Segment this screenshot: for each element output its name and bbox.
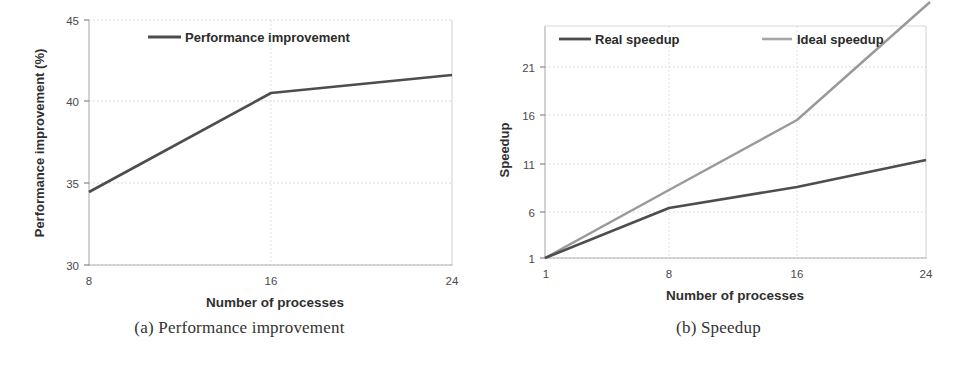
panel-a: 45 40 35 30 8 16 24 Performance improvem… <box>0 0 479 370</box>
y-axis-title-a: Performance improvement (%) <box>32 49 47 238</box>
legend-label-performance-improvement: Performance improvement <box>185 30 350 45</box>
panel-b: 21 16 11 6 1 1 8 16 24 Real speedup <box>479 0 958 370</box>
x-tick-label-b-0: 1 <box>543 268 549 280</box>
y-tick-label-a-3: 45 <box>66 15 79 27</box>
figure-container: 45 40 35 30 8 16 24 Performance improvem… <box>0 0 958 370</box>
y-tick-label-b-3: 16 <box>522 110 535 122</box>
speedup-chart: 21 16 11 6 1 1 8 16 24 Real speedup <box>479 0 958 312</box>
chart-b: 21 16 11 6 1 1 8 16 24 Real speedup <box>479 0 958 312</box>
x-tick-label-b-3: 24 <box>920 268 933 280</box>
x-axis-title-a: Number of processes <box>206 295 344 310</box>
y-ticks-a <box>84 20 89 265</box>
chart-a: 45 40 35 30 8 16 24 Performance improvem… <box>0 0 479 312</box>
y-ticks-b <box>540 67 545 258</box>
x-tick-label-b-1: 8 <box>666 268 672 280</box>
x-tick-label-a-1: 16 <box>265 275 278 287</box>
caption-a: (a) Performance improvement <box>0 318 479 338</box>
legend-label-ideal-speedup: Ideal speedup <box>797 32 884 47</box>
caption-b: (b) Speedup <box>479 318 958 338</box>
performance-improvement-chart: 45 40 35 30 8 16 24 Performance improvem… <box>0 0 479 312</box>
x-tick-label-a-0: 8 <box>86 275 92 287</box>
x-tick-label-b-2: 16 <box>791 268 804 280</box>
y-tick-label-b-1: 6 <box>529 207 535 219</box>
x-axis-title-b: Number of processes <box>666 288 804 303</box>
y-tick-label-b-0: 1 <box>529 253 535 265</box>
y-axis-title-b: Speedup <box>497 122 512 177</box>
plot-background-b <box>545 26 926 258</box>
y-tick-label-b-4: 21 <box>522 62 535 74</box>
y-tick-label-a-2: 40 <box>66 96 79 108</box>
y-tick-label-a-0: 30 <box>66 260 79 272</box>
y-tick-label-b-2: 11 <box>523 159 535 171</box>
y-tick-label-a-1: 35 <box>66 178 79 190</box>
x-tick-label-a-2: 24 <box>446 275 459 287</box>
legend-label-real-speedup: Real speedup <box>595 32 680 47</box>
